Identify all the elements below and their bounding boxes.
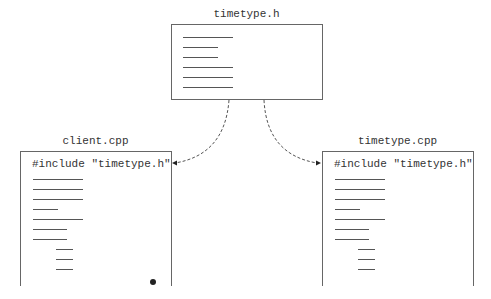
arrowhead-client-icon bbox=[172, 161, 177, 166]
dependency-arrows bbox=[0, 0, 491, 299]
arrow-to-client bbox=[175, 100, 229, 163]
arrowhead-impl-icon bbox=[316, 161, 321, 166]
arrow-to-impl bbox=[264, 100, 317, 163]
